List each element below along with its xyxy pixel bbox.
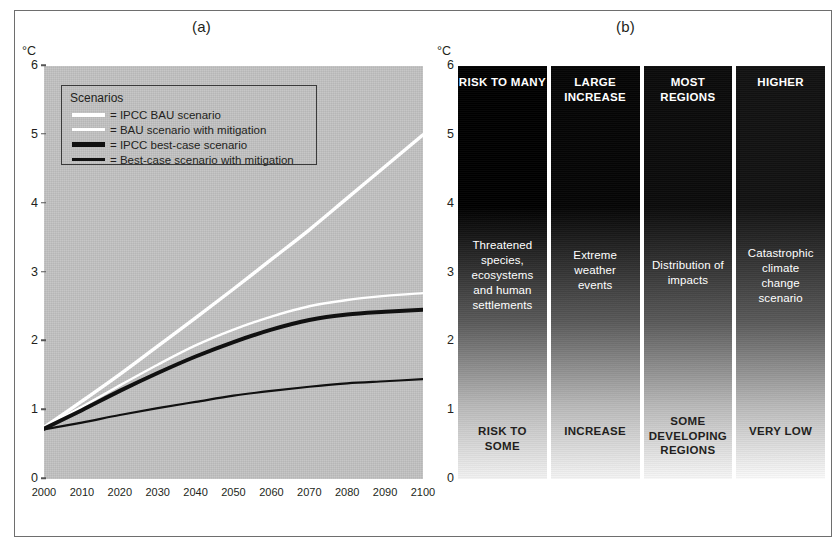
panel-a-x-tick: 2040 [176, 486, 216, 498]
panel-a-y-tickmark [41, 271, 46, 273]
scenario-line [44, 310, 423, 429]
risk-column: HIGHERCatastrophic climate change scenar… [736, 66, 825, 479]
panel-b-y-tick: 1 [432, 402, 454, 416]
legend-swatch-icon [72, 113, 105, 117]
legend-item-ipcc-best-case: = IPCC best-case scenario [72, 137, 316, 152]
panel-a-y-tickmark [41, 477, 46, 479]
panel-a-y-tick: 3 [14, 265, 38, 279]
panel-b-y-tick: 4 [432, 196, 454, 210]
risk-column-header: HIGHER [736, 75, 825, 90]
panel-a-x-tick: 2080 [327, 486, 367, 498]
panel-a-y-tick: 6 [14, 58, 38, 72]
panel-a-y-tickmark [41, 64, 46, 66]
legend-item-label: = BAU scenario with mitigation [110, 124, 266, 136]
panel-a-x-tick: 2100 [403, 486, 443, 498]
panel-a-x-tick: 2000 [24, 486, 64, 498]
panel-a-title: (a) [192, 18, 211, 35]
panel-b-y-tick: 6 [432, 58, 454, 72]
panel-b-y-tick: 5 [432, 127, 454, 141]
risk-column-header: MOST REGIONS [644, 75, 733, 104]
panel-a-plot-area: Scenarios = IPCC BAU scenario = BAU scen… [44, 66, 423, 479]
legend-title: Scenarios [70, 91, 316, 105]
legend-swatch-icon [72, 142, 105, 147]
panel-a-x-tick: 2020 [100, 486, 140, 498]
legend-swatch-icon [72, 128, 105, 131]
legend-item-best-case-mitigation: = Best-case scenario with mitigation [72, 152, 316, 167]
risk-column-footer: SOME DEVELOPING REGIONS [644, 414, 733, 458]
risk-column-description: Distribution of impacts [644, 258, 733, 288]
panel-a-y-tick: 2 [14, 333, 38, 347]
risk-column: MOST REGIONSDistribution of impactsSOME … [644, 66, 733, 479]
panel-a-y-tick: 0 [14, 471, 38, 485]
panel-a-x-tick: 2060 [251, 486, 291, 498]
legend-item-label: = IPCC best-case scenario [110, 139, 247, 151]
panel-a-y-tick: 1 [14, 402, 38, 416]
panel-a-x-tick: 2070 [289, 486, 329, 498]
panel-a-y-tickmark [41, 408, 46, 410]
legend-item-label: = IPCC BAU scenario [110, 109, 221, 121]
scenario-legend: Scenarios = IPCC BAU scenario = BAU scen… [61, 85, 317, 165]
scenario-line [44, 135, 423, 428]
panel-a-y-tickmark [41, 340, 46, 342]
panel-b-unit-label: °C [437, 44, 451, 58]
panel-a-y-tickmark [41, 133, 46, 135]
risk-column-header: LARGE INCREASE [551, 75, 640, 104]
legend-item-ipcc-bau: = IPCC BAU scenario [72, 107, 316, 122]
risk-column-header: RISK TO MANY [458, 75, 547, 90]
panel-a-x-tick: 2030 [138, 486, 178, 498]
risk-column-description: Extreme weather events [551, 248, 640, 293]
risk-column-footer: INCREASE [551, 424, 640, 439]
legend-item-label: = Best-case scenario with mitigation [110, 154, 294, 166]
panel-a-y-tickmark [41, 202, 46, 204]
panel-a-x-tick: 2010 [62, 486, 102, 498]
panel-a-y-tick: 5 [14, 127, 38, 141]
risk-column-description: Catastrophic climate change scenario [736, 246, 825, 306]
panel-b-y-tick: 3 [432, 265, 454, 279]
panel-a-x-tick: 2090 [365, 486, 405, 498]
panel-b-title: (b) [616, 18, 635, 35]
legend-swatch-icon [72, 158, 105, 161]
risk-column: LARGE INCREASEExtreme weather eventsINCR… [551, 66, 640, 479]
risk-column-description: Threatened species, ecosystems and human… [458, 238, 547, 313]
risk-column: RISK TO MANYThreatened species, ecosyste… [458, 66, 547, 479]
panel-a-y-tick: 4 [14, 196, 38, 210]
legend-item-bau-mitigation: = BAU scenario with mitigation [72, 122, 316, 137]
panel-a-x-tick: 2050 [214, 486, 254, 498]
panel-a-unit-label: °C [22, 44, 36, 58]
panel-b-y-tick: 0 [432, 471, 454, 485]
panel-b-columns: RISK TO MANYThreatened species, ecosyste… [458, 66, 825, 479]
risk-column-footer: RISK TO SOME [458, 424, 547, 453]
risk-column-footer: VERY LOW [736, 424, 825, 439]
panel-b-y-tick: 2 [432, 333, 454, 347]
climate-risk-figure: (a) °C Scenarios = IPCC BAU scenario = B… [0, 0, 839, 544]
